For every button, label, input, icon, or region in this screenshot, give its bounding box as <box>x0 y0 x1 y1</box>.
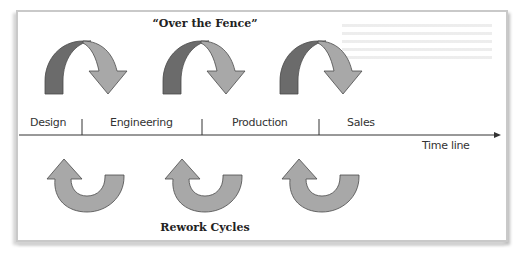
phase-label-engineering: Engineering <box>110 116 173 129</box>
rework-arrow-engineering-design <box>47 159 124 212</box>
rework-arrow-sales-production <box>282 159 359 212</box>
rework-cycles-title: Rework Cycles <box>0 221 410 234</box>
handoff-arrow-engineering-production <box>163 41 245 94</box>
handoff-arrow-design-engineering <box>45 41 127 94</box>
handoff-arrow-production-sales <box>280 41 362 94</box>
phase-label-sales: Sales <box>347 116 375 129</box>
phase-label-production: Production <box>232 116 288 129</box>
timeline-label: Time line <box>422 139 470 152</box>
phase-label-design: Design <box>30 116 66 129</box>
timeline-arrowhead-icon <box>494 132 501 138</box>
rework-arrow-production-engineering <box>165 159 242 212</box>
